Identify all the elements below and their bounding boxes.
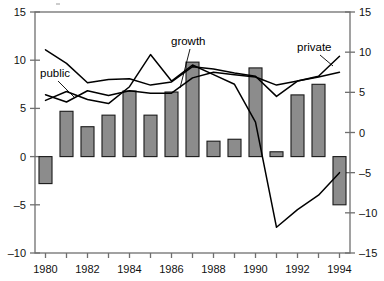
dual-axis-bar-line-chart: –10–5051015–15–10–5051015198019821984198… [0, 0, 384, 281]
bar [123, 91, 136, 157]
bar [270, 152, 283, 157]
x-axis: 19801982198419861988199019921994 [33, 253, 351, 275]
x-axis-tick-label: 1990 [243, 263, 267, 275]
left-axis-tick-label: 0 [20, 151, 26, 163]
x-axis-tick-label: 1994 [327, 263, 351, 275]
right-axis-tick-label: 10 [359, 46, 371, 58]
x-axis-tick-label: 1992 [285, 263, 309, 275]
x-axis-tick-label: 1988 [201, 263, 225, 275]
left-axis-tick-label: –5 [14, 199, 26, 211]
x-axis-tick-label: 1984 [117, 263, 141, 275]
left-axis-tick-label: 10 [14, 54, 26, 66]
public-label: public [40, 67, 70, 79]
left-axis-tick-label: 5 [20, 102, 26, 114]
bar [81, 127, 94, 157]
growth-label: growth [171, 35, 206, 47]
right-axis-tick-label: –10 [359, 207, 377, 219]
bar [207, 141, 220, 156]
left-axis-tick-label: 15 [14, 6, 26, 18]
bar [228, 139, 241, 156]
right-axis-tick-label: 0 [359, 127, 365, 139]
right-axis-tick-label: 15 [359, 6, 371, 18]
chart-container: –10–5051015–15–10–5051015198019821984198… [0, 0, 384, 281]
x-axis-tick-label: 1980 [33, 263, 57, 275]
bar [60, 111, 73, 156]
bar [312, 84, 325, 156]
left-axis-tick-label: –10 [8, 247, 26, 259]
right-axis-tick-label: –15 [359, 247, 377, 259]
x-axis-tick-label: 1986 [159, 263, 183, 275]
bar [333, 157, 346, 205]
right-axis-tick-label: 5 [359, 86, 365, 98]
private-label: private [297, 41, 332, 53]
bar-series [39, 62, 346, 205]
right-axis-tick-label: –5 [359, 167, 371, 179]
x-axis-tick-label: 1982 [75, 263, 99, 275]
bar [165, 92, 178, 157]
bar [291, 95, 304, 157]
bar [39, 157, 52, 184]
public-label-leader-line [58, 81, 75, 98]
bar [144, 115, 157, 156]
bar [102, 115, 115, 156]
private-label-leader-line [320, 55, 333, 66]
